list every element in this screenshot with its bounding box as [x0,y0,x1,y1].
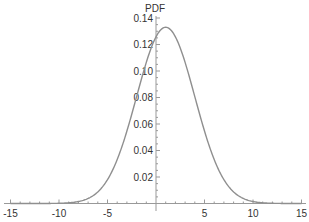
x-tick-label: 5 [202,208,208,219]
x-tick-label: 15 [296,208,308,219]
x-tick-label: 10 [247,208,259,219]
axes: -15-10-5510150.020.040.060.080.100.120.1… [3,13,307,219]
x-tick-label: -10 [52,208,67,219]
y-tick-label: 0.04 [134,145,154,156]
pdf-chart: -15-10-5510150.020.040.060.080.100.120.1… [0,0,309,222]
y-tick-label: 0.06 [134,119,154,130]
y-tick-label: 0.02 [134,172,154,183]
x-tick-label: -5 [103,208,112,219]
y-axis-label: PDF [145,3,165,14]
y-tick-label: 0.14 [134,13,154,24]
x-tick-label: -15 [3,208,18,219]
